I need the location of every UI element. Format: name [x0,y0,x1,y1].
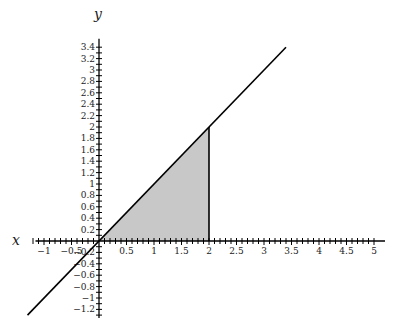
y-tick-label: 0.4 [81,213,96,223]
y-tick-label: −1 [82,293,95,303]
x-tick-label: 1 [151,246,157,256]
y-tick-label: 2.2 [81,111,95,121]
y-tick-label: −0.8 [73,282,95,292]
y-tick-label: 3.4 [81,42,96,52]
y-tick-label: 1.8 [81,133,96,143]
y-tick-label: 1.2 [81,168,95,178]
x-tick-label: 2 [206,246,212,256]
x-tick-label: 3.5 [284,246,299,256]
y-tick-label: 2.6 [81,88,96,98]
x-tick-label: 3 [261,246,267,256]
x-tick-label: 0.5 [119,246,134,256]
x-tick-label: 4 [316,246,322,256]
line-y-equals-x [28,47,287,315]
y-tick-label: 1.6 [81,145,96,155]
x-tick-label: 4.5 [339,246,354,256]
chart: −1−0.50.511.522.533.544.55−1.2−1−0.8−0.6… [0,0,403,335]
x-tick-label: 2.5 [229,246,244,256]
y-tick-label: 0.8 [81,190,96,200]
y-tick-label: 3.2 [81,54,95,64]
y-tick-label: −0.6 [73,270,95,280]
y-tick-label: 2 [89,122,95,132]
y-axis-label: y [93,6,103,22]
y-tick-label: 1.4 [81,156,96,166]
y-tick-label: 0.6 [81,202,96,212]
y-tick-label: 1 [89,179,95,189]
x-tick-label: 5 [371,246,377,256]
y-tick-label: 0.2 [81,225,95,235]
x-tick-label: −1 [37,246,50,256]
series-lines [28,47,287,315]
y-tick-label: 2.4 [81,99,96,109]
y-tick-label: 2.8 [81,76,96,86]
x-axis-label: x [12,232,20,248]
x-tick-label: 1.5 [174,246,189,256]
y-tick-label: −1.2 [73,304,95,314]
y-tick-label: 3 [89,65,95,75]
